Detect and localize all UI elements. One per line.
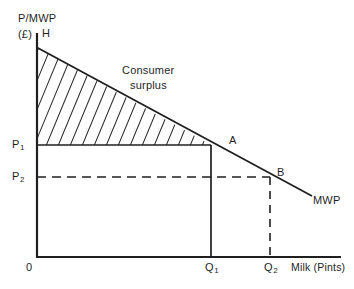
y-axis-unit: (£) bbox=[18, 28, 32, 40]
quantity-1-label-text: Q bbox=[205, 261, 214, 273]
consumer-surplus-label-line1: Consumer bbox=[122, 64, 174, 76]
curve-top-point-label: H bbox=[42, 27, 50, 39]
quantity-2-label-subscript: 2 bbox=[273, 266, 278, 275]
mwp-curve-label: MWP bbox=[313, 194, 340, 206]
diagram-canvas bbox=[0, 0, 354, 289]
quantity-2-label-text: Q bbox=[264, 261, 273, 273]
price-2-label-subscript: 2 bbox=[20, 175, 25, 184]
price-2-label: P2 bbox=[12, 170, 24, 182]
quantity-1-label: Q1 bbox=[205, 261, 218, 273]
y-axis-title: P/MWP bbox=[18, 12, 56, 24]
price-1-label-subscript: 1 bbox=[20, 143, 25, 152]
point-b-label: B bbox=[277, 166, 285, 178]
point-a-label: A bbox=[229, 134, 237, 146]
quantity-1-label-subscript: 1 bbox=[214, 266, 219, 275]
price-1-label-text: P bbox=[12, 138, 20, 150]
price-1-label: P1 bbox=[12, 138, 24, 150]
origin-label: 0 bbox=[26, 261, 32, 273]
x-axis-title: Milk (Pints) bbox=[291, 261, 345, 273]
quantity-2-label: Q2 bbox=[264, 261, 277, 273]
consumer-surplus-label-line2: surplus bbox=[130, 79, 167, 91]
price-2-label-text: P bbox=[12, 170, 20, 182]
consumer-surplus-diagram: P/MWP (£) H Consumer surplus P1 P2 A B M… bbox=[0, 0, 354, 289]
